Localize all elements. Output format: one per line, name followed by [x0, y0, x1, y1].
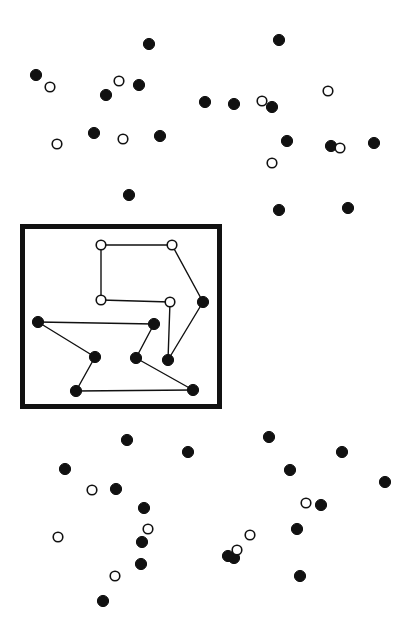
filled-point-marker	[379, 476, 390, 487]
filled-point-marker	[59, 463, 70, 474]
graph-edge	[38, 322, 95, 357]
filled-point-marker	[70, 385, 81, 396]
filled-point-marker	[162, 354, 173, 365]
filled-point-marker	[136, 536, 147, 547]
filled-point-marker	[97, 595, 108, 606]
filled-point-marker	[100, 89, 111, 100]
filled-point-marker	[32, 316, 43, 327]
filled-point-marker	[133, 79, 144, 90]
hollow-point-marker	[96, 240, 106, 250]
hollow-point-marker	[96, 295, 106, 305]
filled-point-marker	[315, 499, 326, 510]
hollow-point-marker	[45, 82, 55, 92]
filled-point-marker	[284, 464, 295, 475]
graph-edge	[76, 390, 193, 391]
filled-point-marker	[135, 558, 146, 569]
hollow-point-marker	[110, 571, 120, 581]
filled-point-marker	[266, 101, 277, 112]
hollow-point-marker	[245, 530, 255, 540]
figure-canvas	[0, 0, 407, 643]
filled-point-marker	[182, 446, 193, 457]
filled-point-marker	[130, 352, 141, 363]
hollow-point-marker	[143, 524, 153, 534]
hollow-point-marker	[87, 485, 97, 495]
filled-point-marker	[228, 98, 239, 109]
filled-point-marker	[143, 38, 154, 49]
filled-point-marker	[197, 296, 208, 307]
filled-point-marker	[138, 502, 149, 513]
hollow-point-marker	[118, 134, 128, 144]
graph-edge	[172, 245, 203, 302]
filled-point-marker	[123, 189, 134, 200]
filled-point-marker	[148, 318, 159, 329]
hollow-point-marker	[257, 96, 267, 106]
graph-edge	[101, 300, 170, 302]
hollow-point-marker	[232, 545, 242, 555]
filled-point-marker	[342, 202, 353, 213]
highlighted-region-box[interactable]	[23, 227, 220, 407]
filled-point-marker	[273, 34, 284, 45]
filled-point-marker	[110, 483, 121, 494]
filled-point-marker	[273, 204, 284, 215]
filled-point-marker	[294, 570, 305, 581]
hollow-point-marker	[53, 532, 63, 542]
scatter-figure	[0, 0, 407, 643]
filled-point-marker	[263, 431, 274, 442]
filled-point-marker	[336, 446, 347, 457]
hollow-point-marker	[301, 498, 311, 508]
hollow-point-marker	[165, 297, 175, 307]
filled-point-marker	[199, 96, 210, 107]
hollow-point-marker	[114, 76, 124, 86]
graph-edge	[38, 322, 154, 324]
region-box-outline[interactable]	[23, 227, 220, 407]
point-markers-layer	[30, 34, 390, 606]
hollow-point-marker	[335, 143, 345, 153]
filled-point-marker	[187, 384, 198, 395]
filled-point-marker	[88, 127, 99, 138]
hollow-point-marker	[267, 158, 277, 168]
filled-point-marker	[281, 135, 292, 146]
filled-point-marker	[368, 137, 379, 148]
graph-edges-layer	[38, 245, 203, 391]
graph-edge	[168, 302, 203, 360]
hollow-point-marker	[167, 240, 177, 250]
filled-point-marker	[89, 351, 100, 362]
graph-edge	[168, 302, 170, 360]
filled-point-marker	[121, 434, 132, 445]
filled-point-marker	[154, 130, 165, 141]
hollow-point-marker	[52, 139, 62, 149]
filled-point-marker	[291, 523, 302, 534]
filled-point-marker	[30, 69, 41, 80]
hollow-point-marker	[323, 86, 333, 96]
